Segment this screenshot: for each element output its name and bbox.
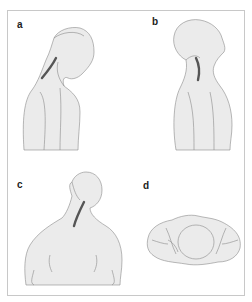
- figure-b-body: [174, 20, 232, 150]
- anatomy-illustration: [0, 0, 252, 302]
- figure-d-body: [147, 215, 240, 265]
- figure-a-body: [23, 27, 94, 150]
- figure-c-body: [25, 172, 122, 285]
